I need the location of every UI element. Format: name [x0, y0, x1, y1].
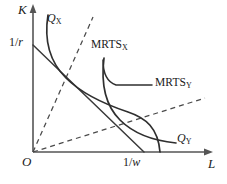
mrts-y-label: MRTSY [155, 77, 192, 89]
y-axis-arrowhead [30, 4, 37, 13]
isocost-line [33, 45, 144, 152]
y-intercept-denominator: r [18, 35, 23, 49]
isoquant-qy-curve [103, 58, 176, 143]
diagram-canvas [0, 0, 227, 184]
mrts-x-label-subscript: X [122, 43, 128, 52]
mrts-x-label: MRTSX [91, 39, 128, 51]
mrts-x-label-text: MRTS [91, 38, 122, 50]
expansion-path-x-ray [33, 17, 93, 152]
isoquant-qy-label: QY [177, 132, 191, 144]
mrts-y-label-text: MRTS [155, 76, 186, 88]
isoquant-isocost-diagram: K L O 1/r 1/w QX QY MRTSX MRTSY [0, 0, 227, 184]
y-axis-label: K [18, 3, 27, 16]
y-intercept-label: 1/r [9, 36, 23, 48]
x-intercept-label: 1/w [123, 156, 140, 168]
x-axis-label: L [208, 157, 215, 170]
x-axis-arrowhead [204, 149, 213, 156]
isoquant-qx-label-text: Q [47, 11, 56, 25]
mrts-y-leader-line [103, 60, 152, 85]
mrts-y-label-subscript: Y [186, 81, 192, 90]
x-intercept-denominator: w [132, 155, 140, 169]
isoquant-qy-label-text: Q [177, 131, 186, 145]
x-intercept-numerator: 1/ [123, 155, 132, 169]
isoquant-qx-label: QX [47, 12, 61, 24]
isoquant-qy-label-subscript: Y [186, 137, 192, 146]
y-intercept-numerator: 1/ [9, 35, 18, 49]
origin-label: O [22, 155, 31, 168]
isoquant-qx-label-subscript: X [56, 17, 62, 26]
